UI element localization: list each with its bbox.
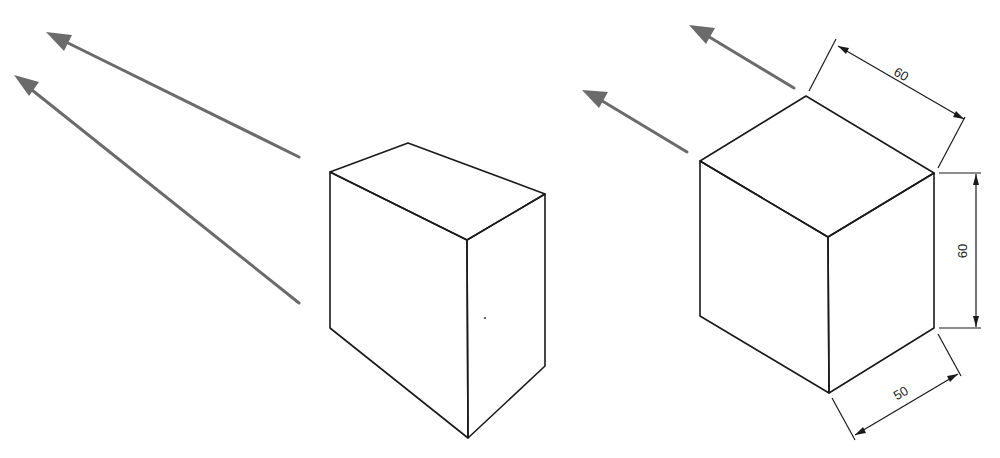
arrow-icon xyxy=(582,90,687,152)
diagram-canvas: 60 60 50 xyxy=(0,0,1000,458)
perspective-block xyxy=(330,143,545,438)
arrow-icon xyxy=(46,32,299,157)
left-rays xyxy=(14,32,299,303)
isometric-block xyxy=(700,96,934,393)
dimension-label-bottom: 50 xyxy=(891,383,911,403)
arrow-icon xyxy=(689,25,794,88)
right-rays xyxy=(582,25,794,152)
dimension-bottom: 50 xyxy=(832,334,961,440)
dimension-label-height: 60 xyxy=(955,244,970,258)
dimension-top: 60 xyxy=(809,39,965,168)
dimension-height: 60 xyxy=(939,173,981,328)
arrow-icon xyxy=(14,75,299,303)
dimension-label-top: 60 xyxy=(891,64,911,84)
